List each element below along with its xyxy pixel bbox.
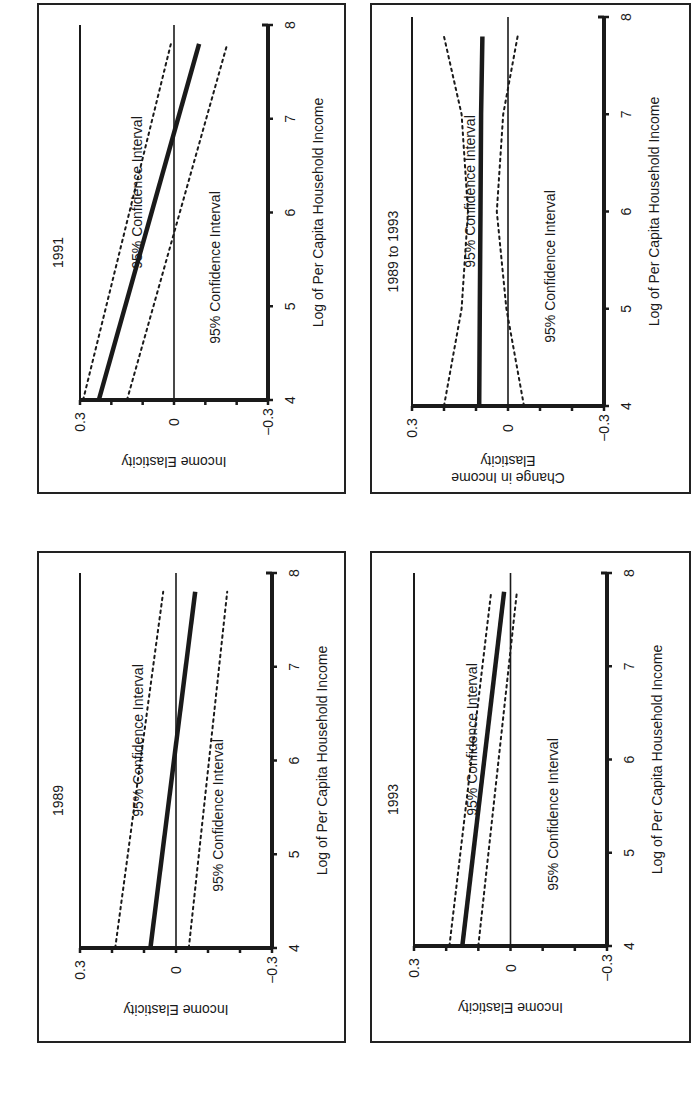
income-tick-label: 7	[621, 662, 637, 670]
value-tick-label: −0.3	[599, 954, 615, 982]
chart-1993: 0.30−0.345678Log of Per Capita Household…	[385, 569, 665, 1016]
income-tick-label: 8	[621, 569, 637, 577]
income-tick-label: 5	[621, 849, 637, 857]
ci-annotation-lower: 95% Confidence Interval	[542, 190, 558, 343]
panel-title: 1989	[50, 785, 66, 816]
panel-title: 1993	[385, 784, 401, 815]
income-tick-label: 6	[282, 208, 298, 216]
y-axis-label: Income Elasticity	[121, 454, 226, 470]
ci-annotation-upper: 95% Confidence Interval	[464, 663, 480, 816]
chart-1989-to-1993: 0.30−0.345678Log of Per Capita Household…	[385, 13, 662, 486]
estimate-line	[99, 44, 199, 400]
income-tick-label: 7	[618, 110, 634, 118]
value-tick-label: 0	[500, 424, 516, 432]
value-tick-label: −0.3	[264, 956, 280, 984]
income-tick-label: 6	[618, 207, 634, 215]
y-axis-label-line1: Change in Income	[451, 470, 565, 486]
income-tick-label: 7	[286, 663, 302, 671]
value-tick-label: 0	[503, 964, 519, 972]
value-tick-label: 0.3	[404, 418, 420, 438]
income-tick-label: 8	[282, 21, 298, 29]
x-axis-label: Log of Per Capita Household Income	[310, 97, 326, 327]
estimate-line	[479, 37, 482, 407]
y-axis-label: Income Elasticity	[123, 1002, 228, 1018]
income-tick-label: 5	[618, 305, 634, 313]
panel-title: 1991	[50, 237, 66, 268]
income-tick-label: 7	[282, 115, 298, 123]
value-tick-label: 0	[168, 966, 184, 974]
value-tick-label: −0.3	[596, 414, 612, 442]
estimate-line	[150, 592, 195, 948]
income-tick-label: 4	[621, 942, 637, 950]
value-tick-label: −0.3	[260, 408, 276, 436]
value-tick-label: 0.3	[72, 960, 88, 980]
chart-1989: 0.30−0.345678Log of Per Capita Household…	[50, 569, 330, 1018]
value-tick-label: 0	[166, 418, 182, 426]
ci-annotation-lower: 95% Confidence Interval	[210, 739, 226, 892]
income-tick-label: 4	[618, 402, 634, 410]
x-axis-label: Log of Per Capita Household Income	[649, 644, 665, 874]
y-axis-label-line2: Elasticity	[480, 453, 535, 469]
panel-title: 1989 to 1993	[385, 210, 401, 292]
x-axis-label: Log of Per Capita Household Income	[646, 96, 662, 326]
ci-annotation-lower: 95% Confidence Interval	[545, 738, 561, 891]
x-axis-label: Log of Per Capita Household Income	[314, 645, 330, 875]
ci-annotation-upper: 95% Confidence Interval	[462, 115, 478, 268]
ci-annotation-lower: 95% Confidence Interval	[207, 191, 223, 344]
income-tick-label: 5	[286, 850, 302, 858]
income-tick-label: 5	[282, 302, 298, 310]
ci-lower-line	[497, 37, 524, 407]
income-tick-label: 4	[286, 944, 302, 952]
ci-upper-line	[83, 44, 171, 400]
income-tick-label: 6	[621, 755, 637, 763]
income-tick-label: 8	[618, 13, 634, 21]
chart-1991: 0.30−0.345678Log of Per Capita Household…	[50, 21, 326, 470]
y-axis-label: Income Elasticity	[458, 1000, 563, 1016]
income-tick-label: 4	[282, 396, 298, 404]
income-tick-label: 8	[286, 569, 302, 577]
income-tick-label: 6	[286, 756, 302, 764]
value-tick-label: 0.3	[406, 958, 422, 978]
value-tick-label: 0.3	[72, 412, 88, 432]
figure-canvas: 0.30−0.345678Log of Per Capita Household…	[0, 0, 699, 1100]
